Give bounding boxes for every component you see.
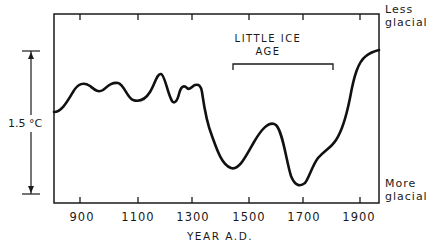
annotation-line-1: LITTLE ICE — [235, 32, 302, 45]
more-text: More — [385, 177, 428, 190]
x-tick-900: 900 — [70, 210, 95, 224]
x-tick-1700: 1700 — [287, 210, 320, 224]
plot-frame — [54, 14, 379, 203]
x-axis-title: YEAR A.D. — [187, 230, 253, 242]
scale-label: 1.5 °C — [8, 115, 42, 132]
glacial-text: glacial — [385, 190, 428, 203]
less-glacial-label: Less glacial — [385, 3, 428, 29]
more-glacial-label: More glacial — [385, 177, 428, 203]
little-ice-age-label: LITTLE ICE AGE — [235, 32, 302, 58]
x-tick-1100: 1100 — [121, 210, 154, 224]
annotation-line-2: AGE — [235, 45, 302, 58]
x-tick-1300: 1300 — [176, 210, 209, 224]
x-tick-1500: 1500 — [232, 210, 265, 224]
bottom-ticks — [80, 197, 360, 203]
x-tick-1900: 1900 — [342, 210, 375, 224]
glacial-text: glacial — [385, 16, 428, 29]
little-ice-age-bracket — [233, 64, 333, 70]
top-ticks — [80, 14, 360, 20]
temperature-curve — [54, 50, 379, 185]
less-text: Less — [385, 3, 428, 16]
